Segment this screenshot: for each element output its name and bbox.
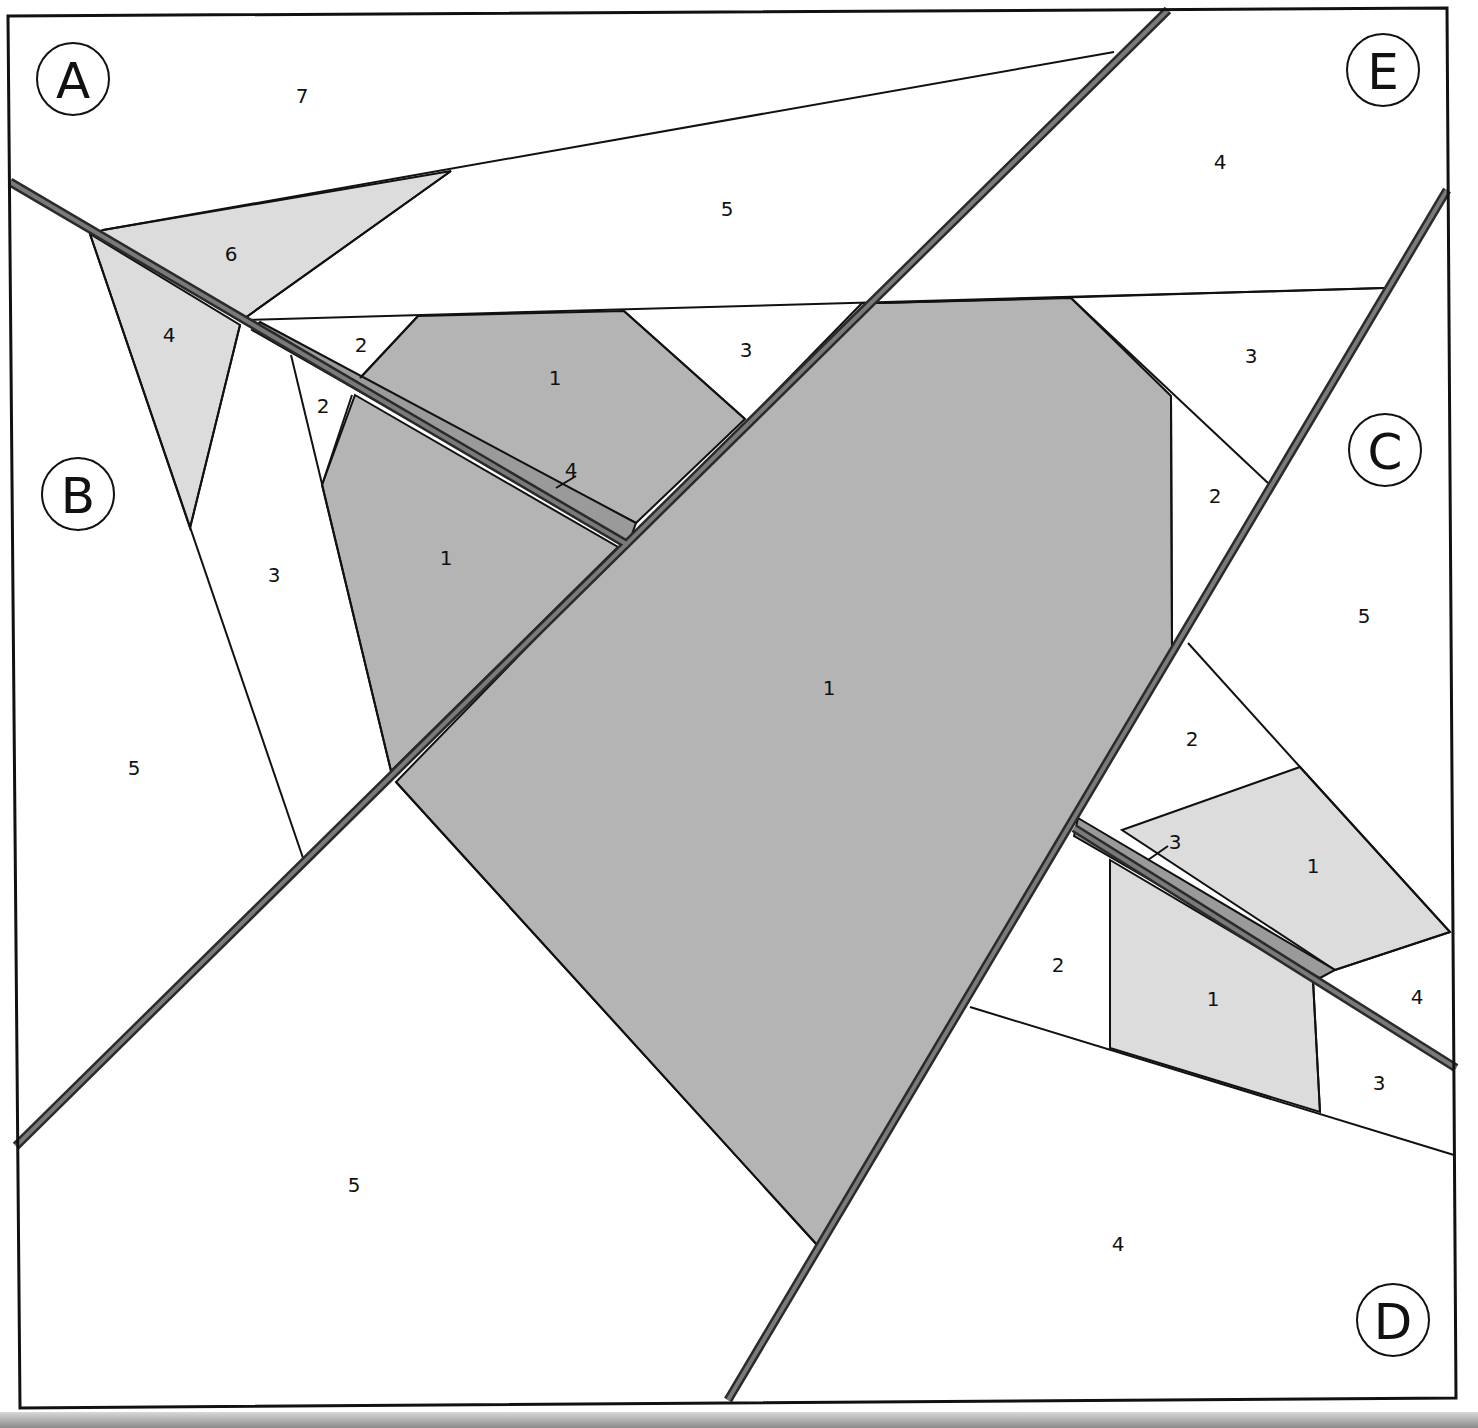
piece-number-d2: 2 bbox=[1052, 953, 1065, 977]
piece-number-a6: 6 bbox=[225, 242, 238, 266]
piece-number-b3: 3 bbox=[268, 563, 281, 587]
piece-number-e5: 5 bbox=[348, 1173, 361, 1197]
piece-number-a5: 5 bbox=[721, 197, 734, 221]
piece-number-e2: 2 bbox=[1209, 484, 1222, 508]
section-letter: E bbox=[1367, 43, 1399, 101]
piece-number-c2: 2 bbox=[1186, 727, 1199, 751]
piece-number-e3: 3 bbox=[1245, 344, 1258, 368]
piece-number-a4: 4 bbox=[565, 458, 578, 482]
section-marker-d: D bbox=[1357, 1284, 1429, 1356]
piece-number-d1: 1 bbox=[1207, 987, 1220, 1011]
section-marker-a: A bbox=[37, 43, 109, 115]
piece-number-d3: 3 bbox=[1373, 1071, 1386, 1095]
piece-number-b4: 4 bbox=[163, 323, 176, 347]
section-marker-c: C bbox=[1349, 414, 1421, 486]
piece-number-b5: 5 bbox=[128, 756, 141, 780]
piece-number-a7: 7 bbox=[296, 84, 309, 108]
section-letter: B bbox=[61, 467, 95, 525]
section-letter: A bbox=[56, 52, 90, 110]
section-letter: C bbox=[1368, 423, 1403, 481]
piece-number-a1: 1 bbox=[549, 366, 562, 390]
section-marker-e: E bbox=[1347, 34, 1419, 106]
piece-number-d4: 4 bbox=[1112, 1232, 1125, 1256]
piece-number-c4: 4 bbox=[1411, 985, 1424, 1009]
piece-number-a3: 3 bbox=[740, 338, 753, 362]
piece-number-b2: 2 bbox=[317, 394, 330, 418]
page-edge-shadow bbox=[0, 1412, 1478, 1428]
piece-number-d3: 3 bbox=[1169, 830, 1182, 854]
piece-number-e4: 4 bbox=[1214, 150, 1227, 174]
piece-number-c5: 5 bbox=[1358, 604, 1371, 628]
piece-number-b1: 1 bbox=[440, 546, 453, 570]
piece-number-a2: 2 bbox=[355, 333, 368, 357]
piece-number-e1: 1 bbox=[823, 676, 836, 700]
section-marker-b: B bbox=[42, 458, 114, 530]
piece-number-c1: 1 bbox=[1307, 854, 1320, 878]
quilt-pattern-diagram: ABCDE 76532144231543215521432134 bbox=[0, 0, 1478, 1428]
section-letter: D bbox=[1374, 1293, 1413, 1351]
